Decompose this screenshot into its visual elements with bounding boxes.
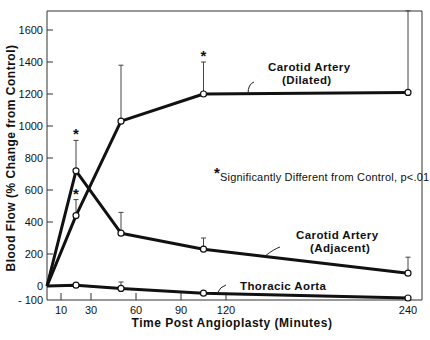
data-point-marker <box>405 89 411 95</box>
significance-asterisk: * <box>73 125 79 142</box>
series-label: Thoracic Aorta <box>240 280 327 292</box>
line-chart: - 10002004006008001000120014001600 10306… <box>0 0 430 340</box>
y-tick-label: 1600 <box>19 24 43 36</box>
y-axis: - 10002004006008001000120014001600 <box>18 24 53 306</box>
x-tick-label: 10 <box>55 304 67 316</box>
x-tick-label: 90 <box>175 304 187 316</box>
data-point-marker <box>73 282 79 288</box>
series-label: Carotid Artery <box>268 61 351 73</box>
x-tick-label: 120 <box>217 304 235 316</box>
x-axis-title: Time Post Angioplasty (Minutes) <box>132 316 333 330</box>
significance-note: *Significantly Different from Control, p… <box>214 164 429 183</box>
y-tick-label: - 100 <box>18 294 43 306</box>
data-point-marker <box>405 270 411 276</box>
y-tick-label: 0 <box>37 280 43 292</box>
label-leader-line <box>265 247 280 256</box>
data-point-marker <box>118 230 124 236</box>
y-tick-label: 800 <box>25 152 43 164</box>
data-point-marker <box>118 285 124 291</box>
y-tick-label: 1400 <box>19 56 43 68</box>
series-line <box>47 92 408 286</box>
y-axis-title: Blood Flow (% Change from Control) <box>4 45 18 272</box>
x-tick-label: 240 <box>399 304 417 316</box>
series-group: *** <box>47 11 411 301</box>
y-tick-label: 200 <box>25 248 43 260</box>
series-line <box>47 285 408 298</box>
data-point-marker <box>118 118 124 124</box>
y-tick-label: 1200 <box>19 88 43 100</box>
data-point-marker <box>73 213 79 219</box>
label-leader-line <box>218 285 226 292</box>
y-tick-label: 400 <box>25 216 43 228</box>
series-thoracic-aorta <box>47 282 411 301</box>
series-label: Carotid Artery <box>296 229 379 241</box>
y-tick-label: 600 <box>25 184 43 196</box>
series-label: (Adjacent) <box>310 242 370 254</box>
x-tick-label: 60 <box>130 304 142 316</box>
data-point-marker <box>405 295 411 301</box>
data-point-marker <box>201 246 207 252</box>
significance-asterisk: * <box>73 185 79 202</box>
y-tick-label: 1000 <box>19 120 43 132</box>
x-tick-label: 30 <box>85 304 97 316</box>
data-point-marker <box>201 91 207 97</box>
series-label: (Dilated) <box>282 74 332 86</box>
data-point-marker <box>201 290 207 296</box>
data-point-marker <box>73 168 79 174</box>
significance-asterisk: * <box>201 47 207 64</box>
series-carotid-artery-adjacent: * <box>47 125 411 286</box>
